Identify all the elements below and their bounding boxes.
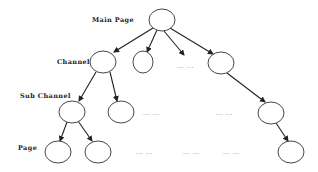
node-subchannel-3	[258, 102, 284, 124]
edge-sub3-page3	[276, 123, 288, 141]
edge-sub1-page1	[60, 122, 67, 141]
ellipsis-subchannel-row-2: ... ...	[216, 109, 233, 116]
node-main-page	[149, 9, 175, 31]
node-channel-2	[133, 51, 153, 73]
edges	[60, 28, 288, 141]
level-label-page: Page	[18, 144, 37, 152]
node-page-3	[278, 141, 304, 163]
edge-channel1-sub2	[110, 72, 117, 101]
node-page-2	[85, 141, 111, 163]
edge-root-channel2	[147, 30, 157, 52]
node-subchannel-2	[108, 101, 134, 123]
level-label-main-page: Main Page	[92, 16, 134, 24]
ellipsis-subchannel-row-1: ... ...	[143, 109, 160, 116]
node-page-1	[45, 141, 71, 163]
edge-channel1-sub1	[79, 72, 96, 101]
node-channel-3	[208, 52, 234, 74]
sitemap-tree-diagram: Main Page Channel Sub Channel Page ... .…	[0, 0, 318, 172]
ellipsis-page-row-2: ... ...	[183, 148, 200, 155]
node-channel-1	[90, 51, 116, 73]
node-subchannel-1	[59, 101, 85, 123]
ellipsis-page-row-1: ... ...	[136, 148, 153, 155]
edge-channel3-sub3	[227, 73, 265, 102]
edge-root-channel3	[170, 28, 213, 54]
nodes	[45, 9, 304, 163]
ellipsis-channel-row: ... ...	[177, 62, 194, 69]
ellipsis-page-row-3: ... ...	[223, 148, 240, 155]
level-label-sub-channel: Sub Channel	[20, 92, 71, 100]
level-label-channel: Channel	[57, 58, 90, 66]
edge-sub1-page2	[78, 121, 92, 141]
edge-root-channel1	[114, 28, 153, 52]
ellipsis-placeholders: ... ... ... ... ... ... ... ... ... ... …	[136, 62, 240, 155]
